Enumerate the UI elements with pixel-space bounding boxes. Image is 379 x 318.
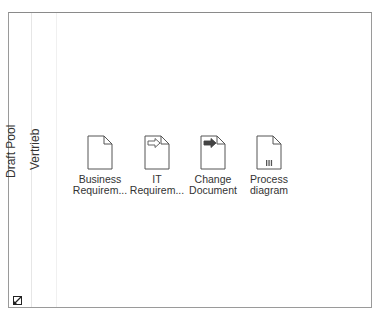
lane-label: Vertrieb — [28, 129, 42, 170]
document-it-requirements[interactable]: IT Requirem... — [127, 135, 187, 196]
document-blank-icon — [87, 135, 113, 170]
document-bars-icon — [256, 135, 282, 170]
document-filled-arrow-icon — [200, 135, 226, 170]
document-change-document[interactable]: Change Document — [183, 135, 243, 196]
document-label: Change Document — [183, 174, 243, 196]
document-label: Process diagram — [239, 174, 299, 196]
document-business-requirements[interactable]: Business Requirem... — [70, 135, 130, 196]
resize-collapse-icon[interactable] — [13, 296, 22, 305]
document-process-diagram[interactable]: Process diagram — [239, 135, 299, 196]
document-label: IT Requirem... — [127, 174, 187, 196]
document-outline-arrow-icon — [144, 135, 170, 170]
lane-divider — [56, 13, 57, 307]
pool-label: Draft Pool — [4, 125, 18, 178]
document-label: Business Requirem... — [70, 174, 130, 196]
